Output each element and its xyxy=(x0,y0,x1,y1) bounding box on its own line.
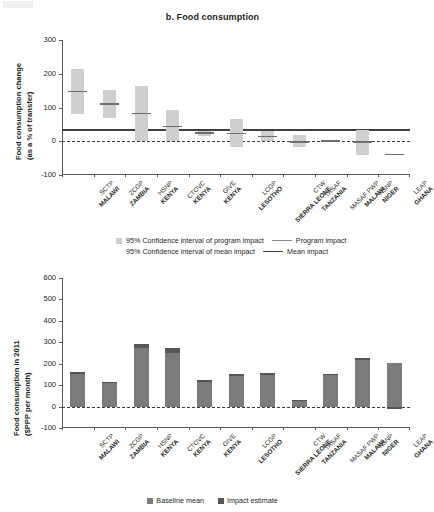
page-corner-mark xyxy=(3,1,33,8)
x-tick-label-bottom: GIVEKENYA xyxy=(217,432,243,458)
x-tick-top xyxy=(62,174,63,177)
x-tick-bottom xyxy=(189,427,190,430)
x-tick-label-bottom: CTOVCKENYA xyxy=(185,432,211,458)
x-axis-line-bottom xyxy=(62,427,410,428)
y-tick-label-top: 200 xyxy=(0,69,56,78)
bar-impact-estimate xyxy=(260,373,275,376)
legend-item-impact-estimate: Impact estimate xyxy=(218,496,278,505)
y-tick-label-bottom: 0 xyxy=(0,402,56,411)
x-tick-top xyxy=(283,174,284,177)
y-tick-bottom xyxy=(59,342,62,343)
legend-swatch-baseline-mean xyxy=(147,498,153,504)
program-impact-mark xyxy=(321,140,340,142)
chart-title-top: b. Food consumption xyxy=(0,12,425,22)
x-tick-top xyxy=(94,174,95,177)
legend-label-ci-mean: 95% Confidence interval of mean impact xyxy=(126,247,255,256)
x-tick-label-bottom: ZCGPZAMBIA xyxy=(123,432,151,460)
x-tick-top xyxy=(189,174,190,177)
program-impact-mark xyxy=(258,136,277,138)
x-axis-line-top xyxy=(62,174,410,175)
program-impact-mark xyxy=(227,133,246,135)
y-tick-top xyxy=(59,40,62,41)
program-impact-mark xyxy=(132,113,151,115)
x-tick-top xyxy=(315,174,316,177)
y-tick-label-top: 300 xyxy=(0,35,56,44)
bar-baseline-mean xyxy=(387,363,402,407)
y-tick-label-top: 0 xyxy=(0,136,56,145)
y-tick-label-bottom: 600 xyxy=(0,273,56,282)
x-tick-top xyxy=(378,174,379,177)
legend-label-program-impact: Program impact xyxy=(296,236,347,245)
program-impact-mark xyxy=(385,154,404,156)
legend-line-program-impact xyxy=(272,240,292,241)
x-tick-top xyxy=(252,174,253,177)
x-tick-bottom xyxy=(409,427,410,430)
x-tick-label-top: LCGPLESOTHO xyxy=(251,179,284,212)
program-impact-mark xyxy=(68,91,87,93)
y-tick-bottom xyxy=(59,321,62,322)
y-tick-bottom xyxy=(59,299,62,300)
y-tick-label-bottom: 500 xyxy=(0,294,56,303)
legend-swatch-ci-program xyxy=(116,238,122,244)
bar-baseline-mean xyxy=(229,376,244,407)
x-tick-label-top: SCTPMALAWI xyxy=(91,179,120,208)
y-tick-label-bottom: 200 xyxy=(0,359,56,368)
legend-label-mean-impact: Mean impact xyxy=(287,247,328,256)
x-tick-bottom xyxy=(378,427,379,430)
x-tick-top xyxy=(409,174,410,177)
legend-bottom: Baseline mean Impact estimate xyxy=(0,496,425,505)
y-tick-label-top: -100 xyxy=(0,170,56,179)
program-impact-mark xyxy=(100,103,119,105)
program-impact-mark xyxy=(290,141,309,143)
plot-area-bottom xyxy=(62,278,410,428)
bar-impact-estimate xyxy=(197,380,212,382)
x-tick-label-top: GIVEKENYA xyxy=(217,179,243,205)
x-tick-top xyxy=(157,174,158,177)
legend-label-impact-estimate: Impact estimate xyxy=(227,496,278,505)
x-tick-bottom xyxy=(62,427,63,430)
x-tick-bottom xyxy=(157,427,158,430)
bar-baseline-mean xyxy=(197,382,212,406)
x-tick-bottom xyxy=(347,427,348,430)
legend-row-ci-mean: 95% Confidence interval of mean impact M… xyxy=(116,247,328,256)
bar-baseline-mean xyxy=(355,360,370,406)
y-tick-label-bottom: 400 xyxy=(0,316,56,325)
plot-area-top xyxy=(62,40,410,175)
y-tick-label-bottom: 300 xyxy=(0,337,56,346)
bar-impact-estimate xyxy=(70,372,85,375)
bar-baseline-mean xyxy=(323,375,338,406)
bar-impact-estimate xyxy=(355,358,370,361)
legend-label-ci-program: 95% Confidence interval of program impac… xyxy=(126,236,264,245)
x-tick-bottom xyxy=(220,427,221,430)
bar-impact-estimate xyxy=(229,374,244,376)
y-tick-top xyxy=(59,108,62,109)
y-axis-line-bottom xyxy=(62,278,63,428)
x-tick-label-top: ZCGPZAMBIA xyxy=(123,179,151,207)
bar-impact-estimate xyxy=(165,348,180,353)
y-tick-label-top: 100 xyxy=(0,103,56,112)
x-tick-top xyxy=(125,174,126,177)
x-tick-label-bottom: LCGPLESOTHO xyxy=(251,432,284,465)
bar-impact-estimate xyxy=(323,374,338,376)
x-tick-label-top: LEAPGHANA xyxy=(407,179,434,206)
x-tick-bottom xyxy=(252,427,253,430)
program-impact-mark xyxy=(353,141,372,143)
bar-baseline-mean xyxy=(165,353,180,407)
x-tick-label-top: CTOVCKENYA xyxy=(185,179,211,205)
program-impact-mark xyxy=(163,126,182,128)
bar-impact-estimate xyxy=(134,344,149,348)
y-tick-bottom xyxy=(59,278,62,279)
legend-item-baseline-mean: Baseline mean xyxy=(147,496,204,505)
x-tick-label-bottom: SCTPMALAWI xyxy=(91,432,120,461)
bar-impact-estimate xyxy=(292,400,307,401)
x-tick-label-bottom: LEAPGHANA xyxy=(407,432,434,459)
y-axis-line-top xyxy=(62,40,63,175)
legend-line-mean-impact xyxy=(263,251,283,252)
panel-food-consumption-change: b. Food consumption Food consumption cha… xyxy=(0,0,425,256)
y-tick-label-bottom: -100 xyxy=(0,423,56,432)
x-tick-label-bottom: HSNPKENYA xyxy=(153,432,179,458)
x-tick-bottom xyxy=(125,427,126,430)
bar-impact-estimate xyxy=(387,407,402,409)
x-tick-bottom xyxy=(94,427,95,430)
x-tick-bottom xyxy=(315,427,316,430)
